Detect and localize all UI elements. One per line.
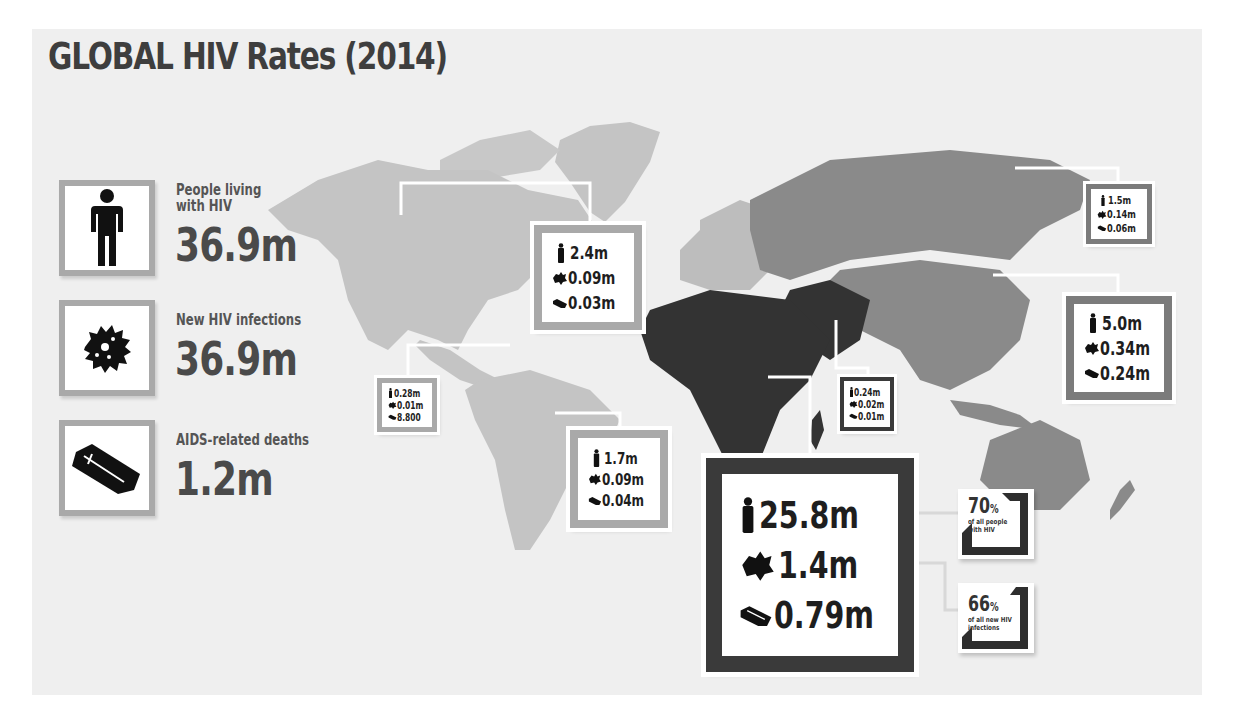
- value-deaths: 0.06m: [1107, 222, 1136, 235]
- person-icon: [1097, 195, 1108, 206]
- callout-caribbean[interactable]: 0.28m 0.01m 8.800: [377, 378, 437, 432]
- value-deaths: 0.01m: [858, 411, 884, 422]
- coffin-icon: [388, 414, 397, 420]
- coffin-icon: [849, 413, 858, 419]
- region-new-zealand: [1110, 480, 1135, 520]
- value-new: 0.02m: [858, 399, 884, 410]
- value-new: 0.01m: [397, 400, 423, 411]
- value-new: 1.4m: [778, 543, 858, 587]
- share-caption-living: of all people with HIV: [968, 518, 1016, 534]
- coffin-icon: [1097, 225, 1107, 231]
- virus-icon: [388, 401, 397, 409]
- value-deaths: 0.04m: [602, 491, 644, 510]
- value-living: 1.5m: [1108, 194, 1131, 207]
- share-value-living: 70%: [968, 493, 999, 518]
- value-new: 0.09m: [602, 470, 644, 489]
- value-living: 0.28m: [394, 388, 420, 399]
- person-icon: [552, 243, 570, 263]
- value-living: 1.7m: [604, 449, 638, 468]
- virus-icon: [849, 400, 858, 408]
- person-icon: [588, 449, 604, 467]
- callout-sub-saharan-africa[interactable]: 25.8m 1.4m 0.79m: [706, 458, 914, 672]
- callout-eastern-europe-central-asia[interactable]: 1.5m 0.14m 0.06m: [1086, 184, 1152, 244]
- callout-middle-east[interactable]: 0.24m 0.02m 0.01m: [840, 377, 894, 431]
- value-living: 0.24m: [854, 387, 880, 398]
- virus-icon: [1097, 210, 1107, 219]
- share-caption-new: of all new HIV infections: [968, 616, 1016, 632]
- callout-north-america[interactable]: 2.4m 0.09m 0.03m: [534, 225, 642, 330]
- value-deaths: 0.03m: [568, 292, 615, 313]
- region-africa: [640, 290, 830, 470]
- person-icon: [1084, 313, 1102, 333]
- value-deaths: 8.800: [397, 412, 421, 423]
- region-madagascar: [810, 410, 824, 450]
- world-map: [0, 0, 1236, 718]
- value-living: 2.4m: [570, 242, 608, 263]
- callout-asia-pacific[interactable]: 5.0m 0.34m 0.24m: [1066, 296, 1172, 400]
- coffin-icon: [1084, 368, 1100, 378]
- value-new: 0.14m: [1107, 208, 1136, 221]
- callout-latin-america[interactable]: 1.7m 0.09m 0.04m: [570, 430, 668, 528]
- share-value-new: 66%: [968, 591, 999, 616]
- virus-icon: [1084, 341, 1100, 355]
- virus-icon: [552, 271, 568, 285]
- coffin-icon: [552, 298, 568, 308]
- person-icon: [738, 496, 759, 534]
- value-new: 0.09m: [568, 267, 615, 288]
- share-box-new: 66% of all new HIV infections: [958, 583, 1034, 653]
- value-deaths: 0.79m: [774, 593, 874, 637]
- value-deaths: 0.24m: [1100, 362, 1150, 384]
- coffin-icon: [738, 604, 774, 626]
- coffin-icon: [588, 496, 602, 505]
- value-living: 25.8m: [759, 493, 859, 537]
- virus-icon: [588, 473, 602, 485]
- value-living: 5.0m: [1102, 312, 1142, 334]
- share-box-living: 70% of all people with HIV: [958, 489, 1034, 559]
- virus-icon: [738, 549, 778, 581]
- value-new: 0.34m: [1100, 337, 1150, 359]
